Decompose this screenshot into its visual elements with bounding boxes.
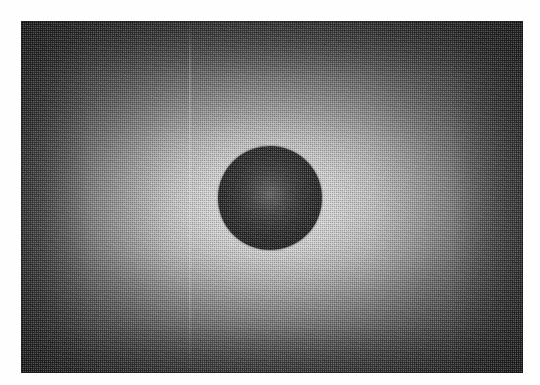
central-dark-disk (218, 146, 322, 250)
plate-description: Grayscale halftone-printed photographic … (0, 0, 1, 1)
page-canvas: Grayscale halftone-printed photographic … (0, 0, 540, 385)
photographic-plate (21, 21, 523, 373)
